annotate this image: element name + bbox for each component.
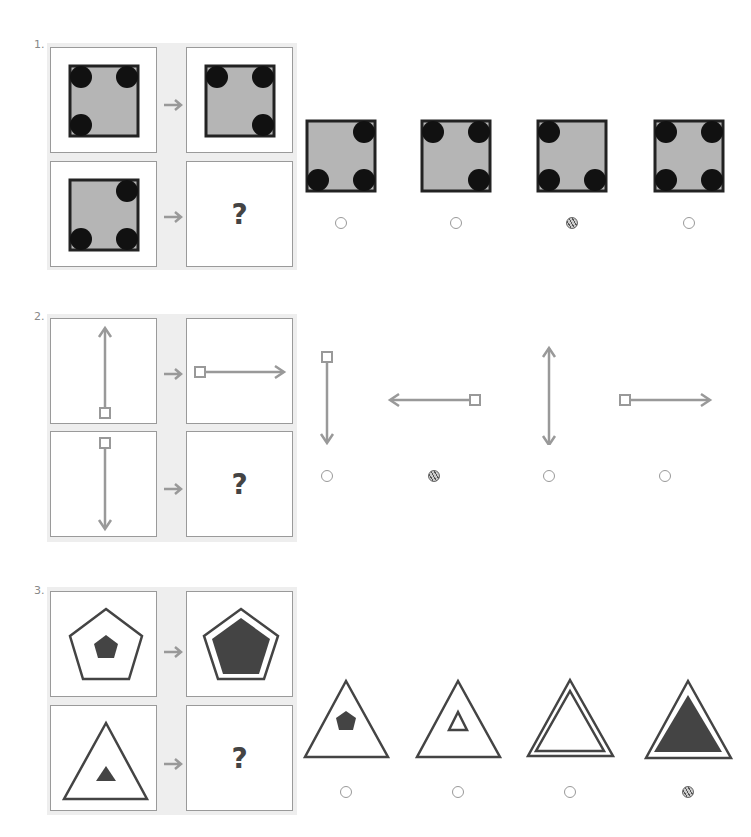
option-1-radio[interactable] <box>335 217 347 229</box>
triangle-with-large-filled-triangle-figure <box>640 675 740 775</box>
option-3-radio[interactable] <box>564 786 576 798</box>
example-input-2 <box>50 705 157 811</box>
option-1[interactable] <box>291 105 391 205</box>
option-2[interactable] <box>410 675 510 775</box>
option-2-radio[interactable] <box>452 786 464 798</box>
answer-placeholder: ? <box>186 161 293 267</box>
option-1[interactable] <box>298 675 398 775</box>
problem-number: 1. <box>34 38 45 51</box>
square-dots-figure <box>406 105 506 205</box>
example-output-1 <box>186 47 293 153</box>
square-dots-figure <box>51 48 158 154</box>
option-2[interactable] <box>406 105 506 205</box>
square-dots-figure <box>639 105 739 205</box>
option-2-radio[interactable] <box>450 217 462 229</box>
double-arrow-vertical-figure <box>500 345 600 445</box>
arrow-right-figure <box>187 319 294 425</box>
triangle-with-pentagon-figure <box>298 675 398 775</box>
answer-placeholder: ? <box>186 705 293 811</box>
option-1-radio[interactable] <box>321 470 333 482</box>
option-4-radio-selected[interactable] <box>682 786 694 798</box>
option-1[interactable] <box>290 345 390 445</box>
square-dots-figure <box>187 48 294 154</box>
pentagon-small-filled-figure <box>51 592 158 698</box>
arrow-up-figure <box>51 319 158 425</box>
option-3-radio[interactable] <box>543 470 555 482</box>
example-input-1 <box>50 47 157 153</box>
option-4[interactable] <box>639 105 739 205</box>
option-4-radio[interactable] <box>683 217 695 229</box>
option-3-radio-selected[interactable] <box>566 217 578 229</box>
square-dots-figure <box>291 105 391 205</box>
option-3[interactable] <box>500 345 600 445</box>
example-input-1 <box>50 318 157 424</box>
square-dots-figure <box>522 105 622 205</box>
example-output-1 <box>186 318 293 424</box>
question-mark: ? <box>187 706 292 810</box>
transform-arrow-icon <box>163 365 183 377</box>
option-3[interactable] <box>522 675 622 775</box>
option-2[interactable] <box>385 345 485 445</box>
answer-placeholder: ? <box>186 431 293 537</box>
option-4[interactable] <box>640 675 740 775</box>
transform-arrow-icon <box>163 208 183 220</box>
problem-number: 3. <box>34 584 45 597</box>
arrow-right-figure <box>615 345 715 445</box>
arrow-down-figure <box>51 432 158 538</box>
option-1-radio[interactable] <box>340 786 352 798</box>
arrow-down-figure <box>290 345 390 445</box>
triangle-with-large-outline-triangle-figure <box>522 675 622 775</box>
example-output-1 <box>186 591 293 697</box>
triangle-small-filled-figure <box>51 706 158 812</box>
example-input-2 <box>50 161 157 267</box>
transform-arrow-icon <box>163 96 183 108</box>
option-2-radio-selected[interactable] <box>428 470 440 482</box>
example-input-2 <box>50 431 157 537</box>
problem-number: 2. <box>34 310 45 323</box>
question-mark: ? <box>187 162 292 266</box>
example-input-1 <box>50 591 157 697</box>
arrow-left-figure <box>385 345 485 445</box>
option-3[interactable] <box>522 105 622 205</box>
option-4[interactable] <box>615 345 715 445</box>
square-dots-figure <box>51 162 158 268</box>
transform-arrow-icon <box>163 643 183 655</box>
question-mark: ? <box>187 432 292 536</box>
transform-arrow-icon <box>163 755 183 767</box>
pentagon-large-filled-figure <box>187 592 294 698</box>
transform-arrow-icon <box>163 480 183 492</box>
triangle-with-small-outline-triangle-figure <box>410 675 510 775</box>
option-4-radio[interactable] <box>659 470 671 482</box>
